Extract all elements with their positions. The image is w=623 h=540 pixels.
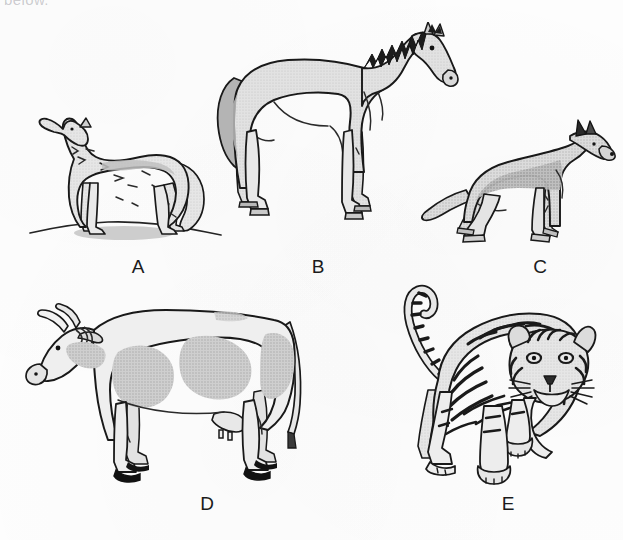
- figure-c-dog: [418, 118, 618, 250]
- cow-nostril: [34, 372, 38, 376]
- dog-paw-hind-far: [457, 228, 474, 235]
- figure-page: below.: [0, 0, 623, 540]
- cow-horn-near: [38, 310, 68, 332]
- dog-ear-near: [576, 120, 586, 136]
- figure-label-e: E: [488, 493, 528, 515]
- horse-nostril: [449, 76, 452, 79]
- cow-udder: [212, 412, 246, 432]
- wolf-eye: [70, 127, 73, 130]
- dog-paw-fore-near: [531, 234, 550, 242]
- cow-eye: [56, 346, 61, 351]
- tiger-drawing: [382, 282, 617, 487]
- cow-spot-back-small: [214, 311, 248, 321]
- figure-a-wolf: [28, 105, 223, 250]
- figure-d-cow: [18, 282, 308, 487]
- wolf-drawing: [28, 105, 223, 250]
- horse-hoof-hind-far: [239, 202, 258, 207]
- wolf-ear: [80, 118, 91, 127]
- figure-label-c: C: [520, 256, 560, 278]
- tiger-pupil-right: [564, 356, 568, 360]
- dog-nose: [610, 152, 614, 156]
- dog-drawing: [418, 118, 618, 250]
- cut-off-header-text: below.: [4, 0, 49, 8]
- tiger-pupil-left: [532, 356, 536, 360]
- horse-hind-leg-near: [246, 130, 269, 209]
- dog-eye: [592, 142, 595, 145]
- cow-tail-tuft: [288, 432, 296, 448]
- horse-eye: [430, 46, 435, 51]
- figure-e-tiger: [382, 282, 617, 487]
- figure-label-a: A: [118, 256, 158, 278]
- figure-label-d: D: [187, 493, 227, 515]
- horse-hoof-fore-far: [354, 206, 371, 211]
- wolf-fore-leg-near: [87, 183, 105, 234]
- cow-spot-mid: [179, 336, 251, 400]
- dog-ear-far: [586, 121, 596, 134]
- figure-label-b: B: [298, 256, 338, 278]
- horse-hoof-fore-near: [345, 213, 363, 219]
- dog-paw-hind-near: [463, 235, 485, 242]
- cow-drawing: [18, 282, 308, 487]
- horse-hoof-hind-near: [250, 209, 269, 215]
- cow-spot-shoulder: [112, 346, 174, 408]
- cow-teats: [219, 430, 232, 440]
